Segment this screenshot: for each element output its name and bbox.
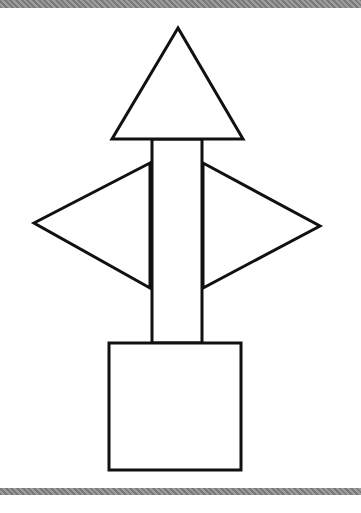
top-triangle-shape	[112, 28, 243, 139]
right-triangle-shape	[203, 163, 320, 288]
stem-rectangle-shape	[152, 139, 202, 343]
left-triangle-shape	[34, 163, 150, 288]
arrow-figure-diagram	[0, 0, 361, 513]
base-square-shape	[109, 343, 241, 470]
